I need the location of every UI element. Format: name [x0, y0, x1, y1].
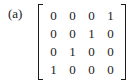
matrix-cell: 0	[82, 43, 101, 61]
matrix-cell: 0	[82, 7, 101, 25]
right-bracket	[121, 4, 126, 80]
matrix-row: 0 0 1 0	[44, 25, 120, 43]
matrix-cell: 1	[63, 43, 82, 61]
matrix-row: 0 1 0 0	[44, 43, 120, 61]
matrix-cell: 0	[63, 25, 82, 43]
matrix-cell: 0	[101, 43, 120, 61]
matrix-cell: 0	[63, 61, 82, 79]
matrix-cell: 0	[44, 7, 63, 25]
matrix-cell: 0	[44, 43, 63, 61]
matrix: 0 0 0 1 0 0 1 0 0 1 0 0 1 0 0 0	[44, 7, 120, 79]
left-bracket	[38, 4, 43, 80]
matrix-cell: 1	[101, 7, 120, 25]
matrix-cell: 0	[101, 61, 120, 79]
matrix-cell: 0	[101, 25, 120, 43]
matrix-row: 1 0 0 0	[44, 61, 120, 79]
matrix-cell: 0	[63, 7, 82, 25]
matrix-cell: 0	[44, 25, 63, 43]
matrix-row: 0 0 0 1	[44, 7, 120, 25]
matrix-cell: 0	[82, 61, 101, 79]
matrix-cell: 1	[44, 61, 63, 79]
figure-label: (a)	[8, 6, 22, 22]
matrix-cell: 1	[82, 25, 101, 43]
